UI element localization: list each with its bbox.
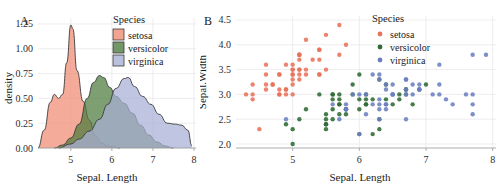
scatter-point-versicolor — [397, 92, 401, 96]
scatter-point-virginica — [330, 102, 334, 106]
scatter-point-setosa — [317, 48, 321, 52]
scatter-point-virginica — [390, 82, 394, 86]
scatter-point-versicolor — [284, 122, 288, 126]
panel-b-legend-label-virginica: virginica — [390, 55, 426, 66]
panel-b-tick-labels: 2.02.53.03.54.04.55678 — [219, 14, 496, 165]
legend-swatch-setosa-icon — [113, 29, 124, 40]
panel-b-legend-label-versicolor: versicolor — [390, 42, 431, 53]
scatter-point-versicolor — [337, 97, 341, 101]
legend-swatch-versicolor-icon — [113, 42, 124, 53]
scatter-point-virginica — [464, 92, 468, 96]
panel-a-legend-label-virginica: virginica — [128, 56, 164, 67]
panel-a-xtick-8: 8 — [191, 154, 196, 165]
scatter-point-virginica — [417, 82, 421, 86]
scatter-point-virginica — [430, 92, 434, 96]
panel-b-letter: B — [204, 14, 212, 28]
scatter-point-versicolor — [357, 107, 361, 111]
scatter-point-setosa — [304, 67, 308, 71]
scatter-point-virginica — [404, 77, 408, 81]
scatter-point-setosa — [277, 92, 281, 96]
panel-a-legend-label-setosa: setosa — [128, 30, 153, 41]
scatter-point-setosa — [290, 82, 294, 86]
panel-a-density: 0.000.250.500.751.001.255678 A Sepal. Le… — [0, 0, 200, 188]
scatter-point-virginica — [377, 77, 381, 81]
panel-b-xtick-6: 6 — [357, 154, 362, 165]
scatter-point-virginica — [370, 72, 374, 76]
scatter-point-setosa — [250, 97, 254, 101]
scatter-point-versicolor — [364, 97, 368, 101]
scatter-point-setosa — [290, 72, 294, 76]
scatter-point-setosa — [284, 62, 288, 66]
scatter-point-virginica — [404, 117, 408, 121]
scatter-point-virginica — [437, 62, 441, 66]
scatter-point-setosa — [317, 72, 321, 76]
scatter-point-versicolor — [330, 97, 334, 101]
scatter-point-setosa — [257, 127, 261, 131]
panel-a-legend-item-virginica[interactable]: virginica — [113, 55, 164, 67]
scatter-point-setosa — [297, 53, 301, 57]
scatter-point-setosa — [244, 92, 248, 96]
scatter-point-virginica — [384, 82, 388, 86]
panel-b-legend-label-setosa: setosa — [390, 29, 415, 40]
scatter-point-setosa — [250, 92, 254, 96]
panel-a-legend-item-setosa[interactable]: setosa — [113, 29, 153, 41]
panel-a-legend[interactable]: Species setosaversicolorvirginica — [113, 14, 169, 67]
scatter-point-virginica — [437, 82, 441, 86]
scatter-point-virginica — [364, 92, 368, 96]
panel-b-xtick-7: 7 — [424, 154, 429, 165]
scatter-point-virginica — [384, 107, 388, 111]
scatter-point-virginica — [344, 102, 348, 106]
panel-a-legend-items[interactable]: setosaversicolorvirginica — [113, 29, 169, 67]
scatter-point-setosa — [324, 33, 328, 37]
scatter-point-setosa — [304, 38, 308, 42]
scatter-point-versicolor — [290, 142, 294, 146]
panel-b-xtick-5: 5 — [290, 154, 295, 165]
scatter-point-virginica — [470, 102, 474, 106]
panel-b-ytick-2.0: 2.0 — [219, 139, 232, 150]
scatter-point-versicolor — [337, 112, 341, 116]
scatter-point-versicolor — [377, 127, 381, 131]
panel-b-legend-items[interactable]: setosaversicolorvirginica — [378, 29, 431, 66]
scatter-point-virginica — [470, 112, 474, 116]
scatter-point-virginica — [484, 53, 488, 57]
panel-a-xtick-5: 5 — [68, 154, 73, 165]
panel-a-ytick-0.25: 0.25 — [16, 118, 34, 129]
panel-b-ytick-2.5: 2.5 — [219, 114, 232, 125]
scatter-point-virginica — [337, 117, 341, 121]
panel-b-legend-item-setosa[interactable]: setosa — [378, 29, 415, 40]
scatter-point-versicolor — [337, 102, 341, 106]
scatter-point-virginica — [377, 107, 381, 111]
legend-dot-virginica-icon — [378, 58, 383, 63]
panel-a-ytick-0.00: 0.00 — [16, 143, 34, 154]
scatter-point-virginica — [370, 102, 374, 106]
scatter-point-versicolor — [390, 102, 394, 106]
scatter-point-setosa — [277, 87, 281, 91]
scatter-point-setosa — [297, 77, 301, 81]
panel-b-legend-item-virginica[interactable]: virginica — [378, 55, 426, 66]
panel-b-legend[interactable]: Species setosaversicolorvirginica — [372, 13, 431, 66]
scatter-point-versicolor — [324, 122, 328, 126]
scatter-point-setosa — [250, 82, 254, 86]
scatter-point-versicolor — [384, 97, 388, 101]
scatter-point-virginica — [450, 102, 454, 106]
scatter-point-setosa — [270, 82, 274, 86]
scatter-point-setosa — [310, 57, 314, 61]
legend-dot-setosa-icon — [378, 32, 383, 37]
scatter-point-versicolor — [330, 92, 334, 96]
panel-b-ytick-4.5: 4.5 — [219, 14, 232, 25]
panel-b-xtick-8: 8 — [490, 154, 495, 165]
panel-a-legend-item-versicolor[interactable]: versicolor — [113, 42, 169, 54]
panel-a-letter: A — [20, 14, 29, 28]
scatter-point-virginica — [384, 87, 388, 91]
legend-dot-versicolor-icon — [378, 45, 383, 50]
panel-a-yaxis-title: density — [2, 72, 14, 104]
panel-b-legend-item-versicolor[interactable]: versicolor — [378, 42, 431, 53]
scatter-point-setosa — [264, 87, 268, 91]
scatter-point-virginica — [377, 102, 381, 106]
scatter-point-virginica — [470, 53, 474, 57]
panel-a-ytick-1.00: 1.00 — [16, 43, 34, 54]
scatter-point-setosa — [337, 53, 341, 57]
scatter-point-virginica — [437, 92, 441, 96]
scatter-point-setosa — [304, 72, 308, 76]
scatter-point-setosa — [337, 23, 341, 27]
